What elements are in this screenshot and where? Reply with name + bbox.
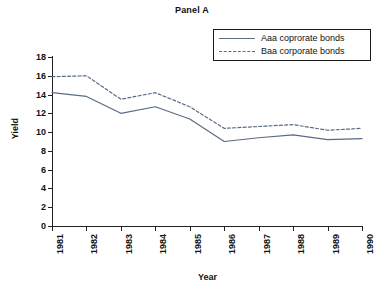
x-tick: [86, 226, 87, 231]
x-tick-label: 1986: [228, 234, 237, 274]
y-tick-label: 18: [6, 53, 46, 62]
y-axis-title: Yield: [10, 118, 20, 139]
chart-legend: Aaa coprorate bonds Baa corporate bonds: [213, 29, 371, 61]
legend-item-aaa: Aaa coprorate bonds: [219, 32, 366, 45]
x-tick: [121, 226, 122, 231]
legend-swatch-dashed-icon: [219, 46, 255, 57]
y-tick-label: 16: [6, 72, 46, 81]
x-tick-label: 1985: [194, 234, 203, 274]
y-tick-label: 12: [6, 109, 46, 118]
x-tick: [224, 226, 225, 231]
chart-title: Panel A: [0, 5, 384, 15]
x-tick: [259, 226, 260, 231]
y-tick-label: 4: [6, 184, 46, 193]
series-canvas: [52, 57, 362, 226]
x-tick-label: 1983: [125, 234, 134, 274]
x-tick: [52, 226, 53, 231]
x-tick-label: 1984: [159, 234, 168, 274]
legend-label-baa: Baa corporate bonds: [255, 46, 345, 57]
chart-figure: Panel A 024681012141618 1981198219831984…: [0, 0, 384, 298]
y-tick-label: 6: [6, 166, 46, 175]
y-tick-label: 2: [6, 203, 46, 212]
y-tick-label: 14: [6, 91, 46, 100]
x-tick: [190, 226, 191, 231]
plot-area: [52, 57, 362, 226]
x-axis-line: [52, 226, 363, 227]
x-tick: [328, 226, 329, 231]
y-tick-label: 8: [6, 147, 46, 156]
legend-item-baa: Baa corporate bonds: [219, 45, 366, 58]
x-tick: [155, 226, 156, 231]
x-axis-title: Year: [52, 272, 363, 282]
x-tick-label: 1988: [297, 234, 306, 274]
x-tick: [293, 226, 294, 231]
x-tick-label: 1982: [90, 234, 99, 274]
x-tick-label: 1990: [366, 234, 375, 274]
x-tick-label: 1987: [263, 234, 272, 274]
x-tick: [362, 226, 363, 231]
y-tick-label: 0: [6, 222, 46, 231]
legend-swatch-solid-icon: [219, 33, 255, 44]
legend-label-aaa: Aaa coprorate bonds: [255, 33, 345, 44]
x-tick-label: 1981: [56, 234, 65, 274]
x-tick-label: 1989: [332, 234, 341, 274]
